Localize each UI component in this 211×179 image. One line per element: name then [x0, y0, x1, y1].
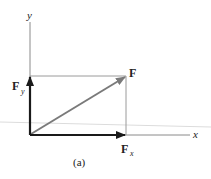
vector-F-label: F — [129, 66, 136, 80]
vector-diagram: y x F F y F x (a) — [0, 0, 211, 179]
vector-Fx-subscript: x — [129, 149, 134, 158]
y-axis-label: y — [26, 9, 32, 21]
vector-Fy-label: F — [12, 79, 19, 93]
vector-F-arrow — [31, 77, 125, 134]
vector-Fy-subscript: y — [20, 87, 25, 96]
x-axis-label: x — [192, 128, 198, 140]
stray-scan-line — [0, 122, 211, 127]
vector-Fx-label: F — [121, 142, 128, 156]
figure-caption: (a) — [73, 156, 86, 169]
